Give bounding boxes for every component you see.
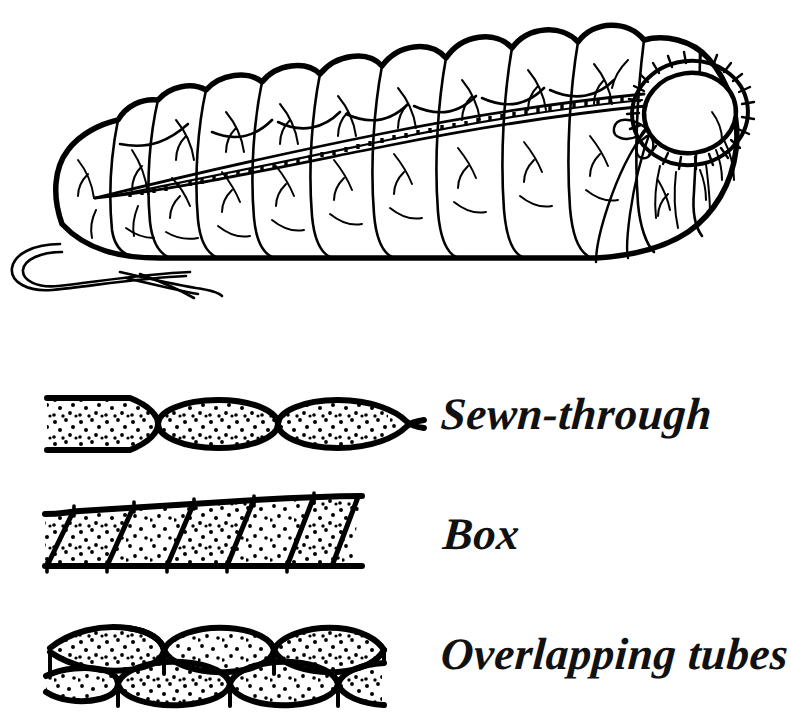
diagram-sewn-through bbox=[47, 398, 424, 450]
diagram-overlapping-tubes bbox=[46, 627, 384, 706]
label-sewn-through: Sewn-through bbox=[439, 392, 713, 437]
label-box: Box bbox=[441, 512, 521, 557]
overlapping-upper-row bbox=[50, 627, 382, 672]
sewn-through-chambers bbox=[47, 398, 410, 450]
label-overlapping-tubes: Overlapping tubes bbox=[439, 632, 789, 677]
figure-canvas bbox=[0, 0, 791, 725]
figure-root bbox=[0, 0, 791, 725]
